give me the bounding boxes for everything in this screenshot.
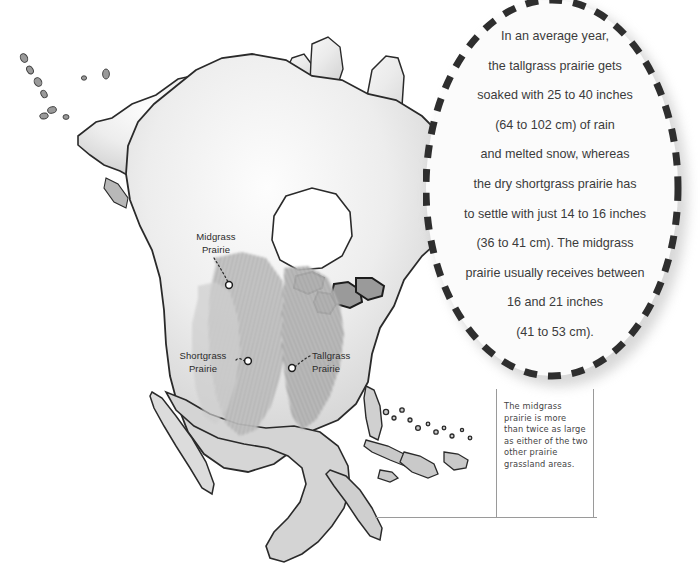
prairie-bands [192,252,344,436]
caption-text: The midgrass prairie is more than twice … [504,400,588,470]
figure-canvas: Midgrass Prairie Shortgrass Prairie Tall… [0,0,698,571]
jamaica [378,470,398,482]
map-label-shortgrass-prairie: Shortgrass Prairie [172,350,234,375]
callout-line-6: to settle with just 14 to 16 inches [439,200,671,230]
callout-line-7: (36 to 41 cm). The midgrass [439,229,671,259]
callout-line-1: the tallgrass prairie gets [439,52,671,82]
hudson-bay [272,188,352,270]
rainfall-callout: In an average year,the tallgrass prairie… [423,0,687,387]
shortgrass-marker [245,358,252,365]
callout-line-8: prairie usually receives between [439,259,671,289]
map-label-tallgrass-prairie: Tallgrass Prairie [312,350,370,375]
callout-line-2: soaked with 25 to 40 inches [439,81,671,111]
callout-line-5: the dry shortgrass prairie has [439,170,671,200]
puerto-rico [444,452,468,470]
callout-line-0: In an average year, [439,22,671,52]
florida-peninsula [364,386,382,440]
callout-line-4: and melted snow, whereas [439,140,671,170]
callout-line-9: 16 and 21 inches [439,288,671,318]
alaska-peninsula [104,178,128,208]
tallgrass-marker [289,365,296,372]
map-label-midgrass-prairie: Midgrass Prairie [186,231,246,256]
hispaniola [400,452,438,478]
callout-line-10: (41 to 53 cm). [439,318,671,348]
callout-text: In an average year,the tallgrass prairie… [439,22,671,348]
midgrass-marker [226,282,233,289]
callout-line-3: (64 to 102 cm) of rain [439,111,671,141]
